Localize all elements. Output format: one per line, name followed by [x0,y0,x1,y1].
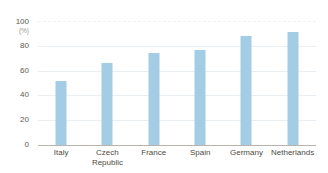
y-axis-unit-label: (%) [19,27,29,35]
y-tick-label-60: 60 [20,66,29,75]
x-axis-labels: Italy Czech Republic France Spain German… [38,148,316,173]
x-label-italy: Italy [38,148,84,158]
x-label-germany: Germany [223,148,269,158]
y-axis: 100 (%) 80 60 40 20 0 [0,0,34,173]
y-tick-label-40: 40 [20,90,29,99]
y-tick-label-20: 20 [20,115,29,124]
y-tick-label-0: 0 [25,140,29,149]
bar-germany[interactable] [241,36,252,145]
bars-layer [38,21,316,145]
x-label-czech-republic: Czech Republic [84,148,130,168]
y-tick-label-100: 100 [16,17,29,26]
x-label-france: France [131,148,177,158]
bar-slot-germany [223,21,269,145]
bar-france[interactable] [148,53,159,145]
x-axis-line [38,145,316,146]
y-tick-label-80: 80 [20,41,29,50]
bar-chart: 100 (%) 80 60 40 20 0 Italy Czech Republ… [0,0,328,173]
bar-slot-france [131,21,177,145]
bar-slot-spain [177,21,223,145]
bar-italy[interactable] [56,81,67,145]
bar-slot-netherlands [270,21,316,145]
x-label-netherlands: Netherlands [268,148,318,158]
bar-slot-czech-republic [84,21,130,145]
bar-czech-republic[interactable] [102,63,113,145]
bar-spain[interactable] [195,50,206,145]
bar-netherlands[interactable] [287,32,298,145]
bar-slot-italy [38,21,84,145]
x-label-spain: Spain [177,148,223,158]
